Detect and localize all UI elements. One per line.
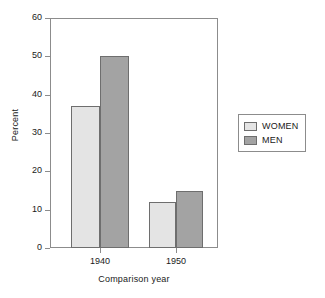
y-tick-line (45, 18, 50, 19)
y-tick-line (45, 56, 50, 57)
y-tick-label: 20 (32, 165, 42, 175)
bar-women-1940 (71, 106, 100, 248)
bar-chart: Percent 0 10 20 30 40 50 60 1940 (0, 0, 325, 298)
y-tick-label: 50 (32, 50, 42, 60)
bar-men-1950 (176, 191, 203, 249)
bar-men-1940 (100, 56, 129, 248)
legend-item-women: WOMEN (244, 119, 299, 133)
y-tick-label: 10 (32, 204, 42, 214)
x-tick-label: 1950 (151, 256, 201, 266)
x-tick-line (176, 248, 177, 253)
y-tick-line (45, 171, 50, 172)
y-tick-line (45, 248, 50, 249)
y-tick-line (45, 95, 50, 96)
legend-item-men: MEN (244, 133, 299, 147)
legend-swatch-women (244, 122, 257, 131)
x-tick-label: 1940 (75, 256, 125, 266)
y-tick-label: 0 (37, 242, 42, 252)
y-tick-line (45, 133, 50, 134)
y-axis-title: Percent (4, 0, 26, 250)
legend: WOMEN MEN (238, 114, 306, 152)
legend-label-women: WOMEN (262, 121, 299, 131)
y-axis-title-text: Percent (10, 109, 20, 141)
legend-label-men: MEN (262, 135, 283, 145)
bar-women-1950 (149, 202, 176, 248)
x-axis-title: Comparison year (50, 274, 218, 284)
y-tick-label: 30 (32, 127, 42, 137)
legend-swatch-men (244, 136, 257, 145)
x-tick-line (100, 248, 101, 253)
y-tick-label: 40 (32, 89, 42, 99)
y-tick-label: 60 (32, 12, 42, 22)
y-tick-line (45, 210, 50, 211)
